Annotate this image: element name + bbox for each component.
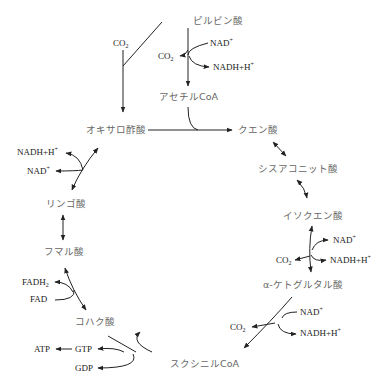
nadh-out-4 — [66, 153, 83, 170]
nadh-out-1 — [189, 56, 209, 67]
cofactor-nadh-3: NADH+H+ — [300, 327, 342, 338]
compound-pyruvate: ピルビン酸 — [193, 15, 243, 26]
compound-succinate: コハク酸 — [75, 316, 115, 327]
compound-cis-aconitate: シスアコニット酸 — [258, 163, 338, 174]
compound-acetylcoa: アセチルCoA — [159, 91, 218, 102]
nad-in-curve-1 — [188, 43, 208, 55]
co2-out-3 — [252, 323, 275, 327]
cofactor-nad-1: NAD+ — [210, 37, 234, 48]
co2-out-2 — [295, 256, 310, 260]
nadh-out-2 — [311, 255, 326, 260]
cofactor-atp: ATP — [34, 344, 50, 354]
arrow-succinylcoa-succinate — [137, 332, 152, 352]
cofactor-co2-carboxylation: CO2 — [113, 38, 129, 49]
cofactor-fad: FAD — [30, 294, 48, 304]
compound-malate: リンゴ酸 — [46, 198, 86, 209]
arrow-succinate-fumarate — [65, 268, 86, 310]
compound-succinyl-coa: スクシニルCoA — [170, 358, 239, 369]
compound-alpha-ketoglutarate: α-ケトグルタル酸 — [263, 279, 343, 290]
citric-acid-cycle-diagram: ピルビン酸 CO2 NAD+ CO2 NADH+H+ アセチルCoA オキサロ酢… — [0, 0, 388, 392]
compound-fumarate: フマル酸 — [44, 246, 84, 257]
gdp-curve — [98, 354, 134, 368]
nad-curve-3 — [282, 312, 297, 318]
nad-curve-2 — [312, 240, 328, 250]
gtp-out — [98, 348, 124, 352]
compound-oxaloacetate: オキサロ酢酸 — [86, 124, 146, 135]
cofactor-co2-3: CO2 — [230, 322, 246, 333]
arrow-citrate-cisaconitate — [273, 142, 286, 156]
co2-out-1 — [180, 50, 188, 56]
fad-curve — [55, 290, 74, 300]
cofactor-co2-2: CO2 — [276, 255, 292, 266]
arrow-malate-oxaloacetate — [72, 148, 98, 190]
co2-joining-line — [123, 22, 162, 66]
arrow-akg-succinylcoa — [244, 297, 292, 348]
compound-citrate: クエン酸 — [238, 124, 278, 135]
cofactor-nad-3: NAD+ — [300, 306, 324, 317]
cofactor-co2-1: CO2 — [158, 51, 174, 62]
compound-isocitrate: イソクエン酸 — [283, 210, 343, 221]
arrow-isocitrate-akg — [310, 226, 312, 272]
nad-curve-4 — [56, 170, 83, 171]
cofactor-nadh-1: NADH+H+ — [213, 61, 255, 72]
cofactor-nad-2: NAD+ — [333, 234, 357, 245]
arrow-cisaconitate-isocitrate — [297, 180, 307, 198]
nadh-out-3 — [278, 324, 296, 334]
cofactor-nadh-4: NADH+H+ — [17, 146, 59, 157]
acetylcoa-join-curve — [188, 107, 198, 130]
cofactor-fadh2: FADH2 — [22, 277, 49, 288]
cofactor-gdp: GDP — [75, 363, 93, 373]
cofactor-nad-4: NAD+ — [27, 165, 51, 176]
succinyl-line — [108, 336, 136, 352]
fadh2-out — [55, 282, 73, 292]
cofactor-gtp: GTP — [75, 344, 92, 354]
cofactor-nadh-2: NADH+H+ — [330, 254, 372, 265]
